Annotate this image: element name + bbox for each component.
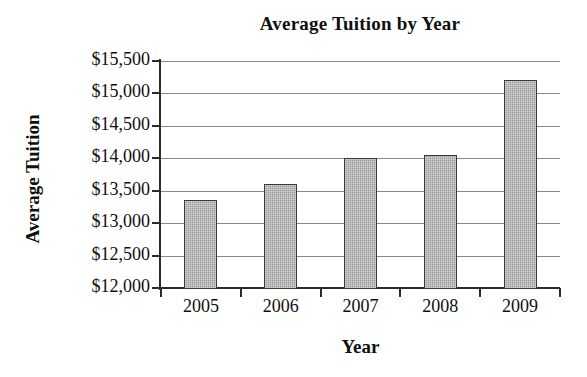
y-axis-tick-label: $13,000: [58, 211, 150, 232]
y-axis-tick-label: $13,500: [58, 179, 150, 200]
y-axis-tick-label: $14,000: [58, 146, 150, 167]
x-axis-tick-label-2007: 2007: [321, 296, 401, 317]
gridline-15000: [161, 93, 560, 94]
y-axis-tick-label: $15,000: [58, 81, 150, 102]
y-axis-tick-mark: [152, 190, 161, 192]
y-axis-tick-label: $15,500: [58, 49, 150, 70]
x-axis-tick-label-2005: 2005: [161, 296, 241, 317]
x-axis-tick-label-2006: 2006: [241, 296, 321, 317]
y-axis-title-container: Average Tuition: [16, 66, 50, 291]
x-axis-tick-mark: [160, 288, 162, 297]
bar-2005: [184, 200, 217, 289]
x-axis-tick-mark: [320, 288, 322, 297]
y-axis-tick-mark: [152, 222, 161, 224]
y-axis-tick-mark: [152, 255, 161, 257]
y-axis-tick-labels: $12,000$12,500$13,000$13,500$14,000$14,5…: [55, 0, 150, 377]
y-axis-tick-label: $12,000: [58, 276, 150, 297]
bar-chart: Average Tuition by Year Average Tuition …: [0, 0, 587, 377]
x-axis-tick-mark: [240, 288, 242, 297]
bar-2009: [504, 80, 537, 289]
x-axis-tick-label-2008: 2008: [400, 296, 480, 317]
y-axis-tick-label: $12,500: [58, 244, 150, 265]
chart-title: Average Tuition by Year: [160, 13, 560, 35]
x-axis-tick-mark: [559, 288, 561, 297]
bar-2008: [424, 155, 457, 289]
y-axis-tick-mark: [152, 157, 161, 159]
y-axis-title: Average Tuition: [22, 114, 44, 243]
gridline-14500: [161, 126, 560, 127]
y-axis-tick-mark: [152, 92, 161, 94]
x-axis-title: Year: [161, 336, 560, 358]
x-axis-tick-mark: [399, 288, 401, 297]
bar-2007: [344, 158, 377, 289]
gridline-15500: [161, 61, 560, 62]
y-axis-tick-label: $14,500: [58, 114, 150, 135]
bar-2006: [264, 184, 297, 289]
plot-area: [161, 61, 560, 288]
y-axis-tick-mark: [152, 60, 161, 62]
x-axis-tick-label-2009: 2009: [480, 296, 560, 317]
y-axis-tick-mark: [152, 125, 161, 127]
x-axis-tick-mark: [479, 288, 481, 297]
